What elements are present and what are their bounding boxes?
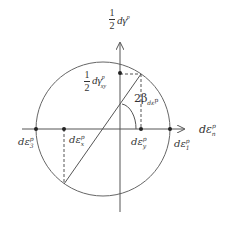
- label-text: dε: [199, 123, 212, 136]
- horizontal-axis-label: dεpn: [199, 123, 216, 137]
- label-text: dε: [18, 136, 30, 147]
- shear-strain-label: 12 dγpxy: [84, 70, 106, 93]
- angle-arc: [122, 104, 136, 129]
- numerator: 1: [110, 8, 115, 18]
- numerator: 1: [85, 70, 90, 80]
- label-sub: 1: [186, 144, 190, 151]
- label-sub: x: [81, 140, 84, 147]
- point-epsy: [139, 127, 143, 131]
- label-sup: p: [30, 135, 34, 142]
- label-sup: p: [154, 96, 158, 103]
- point-epsx: [62, 127, 66, 131]
- denominator: 2: [85, 83, 90, 93]
- label-sup: p: [212, 122, 216, 129]
- label-sub: n: [212, 130, 216, 137]
- point-eps3: [34, 127, 38, 131]
- label-sub: 3: [30, 142, 34, 149]
- label-text: dγ: [117, 14, 127, 26]
- vertical-axis-label: 12 dγp: [109, 8, 130, 31]
- label-sup: p: [143, 135, 147, 142]
- denominator: 2: [110, 21, 115, 31]
- label-text: 2β: [134, 92, 147, 105]
- angle-label: 2βdεp: [134, 93, 158, 106]
- label-sub: y: [143, 142, 146, 149]
- epsx-label: dεpx: [69, 134, 84, 147]
- mohr-circle-diagram: [0, 0, 228, 227]
- label-text: dε: [131, 136, 143, 147]
- label-text: dε: [174, 138, 186, 149]
- label-sup: p: [127, 14, 130, 20]
- label-sup: p: [102, 75, 105, 81]
- label-text: dε: [69, 134, 81, 145]
- point-shear: [118, 71, 122, 75]
- epsy-label: dεpy: [131, 136, 146, 149]
- eps3-label: dεp3: [18, 136, 33, 149]
- label-sup: p: [81, 133, 85, 140]
- eps1-label: dεp1: [174, 138, 189, 151]
- label-sup: p: [186, 137, 190, 144]
- label-sub: xy: [101, 83, 106, 89]
- point-eps1: [168, 127, 172, 131]
